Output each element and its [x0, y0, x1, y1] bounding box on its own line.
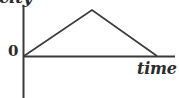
origin-tick-label: 0: [8, 44, 18, 59]
x-axis-label: time: [137, 61, 177, 77]
velocity-curve-line: [24, 10, 157, 56]
y-axis-label: city: [0, 0, 32, 6]
plot-area: [0, 0, 179, 98]
velocity-time-graph-figure: city time 0: [0, 0, 179, 98]
